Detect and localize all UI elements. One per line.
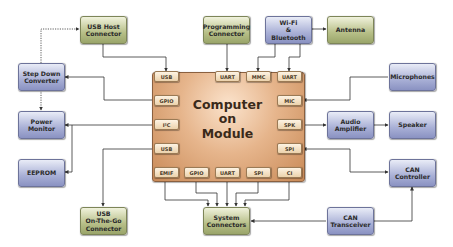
usb-host-line1: USB Host (86, 23, 122, 30)
system-connectors-line1: System (207, 214, 246, 221)
audio-amp-line1: Audio (335, 118, 367, 125)
can-controller-line1: CAN (395, 166, 430, 173)
step-down-converter-block: Step DownConverter (18, 63, 65, 91)
usb-otg-line3: Connector (85, 225, 121, 232)
can-controller-line2: Controller (395, 173, 430, 180)
system-connectors-line2: Connectors (207, 221, 246, 228)
usb-otg-line1: USB (85, 210, 121, 217)
system-connectors-block: SystemConnectors (203, 207, 250, 235)
programming-line2: Connector (203, 30, 250, 37)
speaker-block: Speaker (389, 111, 436, 139)
port-bottom-gpio: GPIO (184, 167, 209, 178)
port-top-usb: USB (154, 71, 179, 82)
wifi-line1: Wi-Fi (271, 19, 305, 26)
port-bottom-ci: CI (277, 167, 302, 178)
port-left-gpio: GPIO (154, 95, 179, 106)
programming-connector-block: ProgrammingConnector (203, 16, 250, 44)
power-monitor-line2: Monitor (28, 125, 55, 132)
block-diagram: Computer on Module USB UART MMC UART GPI… (0, 0, 453, 247)
wifi-line2: & (271, 26, 305, 33)
wifi-bluetooth-block: Wi-Fi&Bluetooth (265, 16, 312, 44)
port-right-mic: MIC (277, 95, 302, 106)
power-monitor-block: PowerMonitor (18, 111, 65, 139)
audio-amp-line2: Amplifier (335, 125, 367, 132)
step-down-line1: Step Down (23, 70, 61, 77)
microphones-block: Microphones (389, 63, 436, 91)
port-right-spi: SPI (277, 143, 302, 154)
can-transceiver-block: CANTransceiver (327, 207, 374, 235)
port-top-uart-2: UART (277, 71, 302, 82)
port-bottom-spi: SPI (246, 167, 271, 178)
can-transceiver-line1: CAN (330, 214, 370, 221)
can-controller-block: CANController (389, 159, 436, 187)
port-top-mmc: MMC (246, 71, 271, 82)
step-down-line2: Converter (23, 77, 61, 84)
wifi-line3: Bluetooth (271, 34, 305, 41)
usb-host-connector-block: USB HostConnector (80, 16, 127, 44)
antenna-block: Antenna (327, 16, 374, 44)
port-left-usb: USB (154, 143, 179, 154)
power-monitor-line1: Power (28, 118, 55, 125)
port-left-i2c: I²C (154, 119, 179, 130)
port-top-uart: UART (215, 71, 240, 82)
port-bottom-emif: EMIF (154, 167, 179, 178)
port-bottom-uart: UART (215, 167, 240, 178)
usb-otg-connector-block: USBOn-The-GoConnector (80, 207, 127, 235)
audio-amplifier-block: AudioAmplifier (327, 111, 374, 139)
eeprom-block: EEPROM (18, 159, 65, 187)
usb-otg-line2: On-The-Go (85, 217, 121, 224)
programming-line1: Programming (203, 23, 250, 30)
port-right-spk: SPK (277, 119, 302, 130)
can-transceiver-line2: Transceiver (330, 221, 370, 228)
usb-host-line2: Connector (86, 30, 122, 37)
